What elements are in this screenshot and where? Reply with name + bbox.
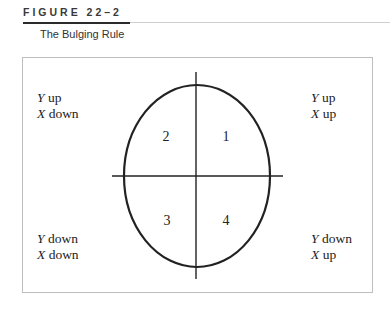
quadrant-number-1: 1 <box>223 129 230 144</box>
label-bottom-right: Y down X up <box>311 231 352 263</box>
quadrant-number-2: 2 <box>163 129 170 144</box>
label-top-right: Y up X up <box>311 90 336 122</box>
quadrant-number-4: 4 <box>223 213 230 228</box>
quadrant-number-3: 3 <box>164 213 171 228</box>
bulging-diagram: 2 1 3 4 <box>0 0 390 314</box>
label-bottom-left: Y down X down <box>37 231 79 263</box>
label-top-left: Y up X down <box>37 90 79 122</box>
